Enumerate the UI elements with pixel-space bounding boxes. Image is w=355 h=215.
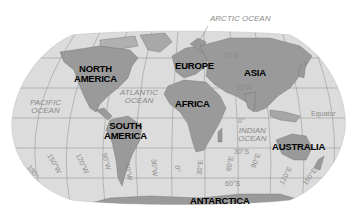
latitude-label-60n: 60°N [223, 52, 239, 59]
longitude-label-30w: 30°W [150, 159, 158, 177]
latitude-label-0: 0° [238, 117, 245, 124]
ocean-label-atlantic: ATLANTIC OCEAN [120, 89, 158, 105]
continent-label-australia: AUSTRALIA [272, 142, 325, 152]
longitude-label-0: 0° [174, 165, 181, 172]
continent-label-asia: ASIA [244, 68, 266, 78]
atlantic-label-line2: OCEAN [120, 97, 158, 105]
continent-label-europe: EUROPE [175, 61, 214, 71]
latitude-label-60s: 60°S [225, 180, 240, 187]
indian-label-line2: OCEAN [238, 135, 266, 143]
continent-label-antarctica: ANTARCTICA [190, 196, 250, 206]
latitude-label-30n: 30°N [236, 84, 252, 91]
continent-label-south-america: SOUTH AMERICA [104, 121, 147, 140]
ocean-label-pacific: PACIFIC OCEAN [30, 99, 61, 115]
continent-label-north-america: NORTH AMERICA [74, 64, 117, 83]
continent-label-africa: AFRICA [175, 99, 210, 109]
pacific-label-line2: OCEAN [30, 107, 61, 115]
latitude-label-equator: Equator [311, 110, 336, 117]
north-america-label-line2: AMERICA [74, 74, 117, 84]
south-america-label-line2: AMERICA [104, 131, 147, 141]
latitude-label-30s: 30°S [234, 148, 249, 155]
ocean-label-indian: INDIAN OCEAN [238, 127, 266, 143]
ocean-label-arctic: ARCTIC OCEAN [210, 15, 270, 23]
longitude-label-30e: 30°E [195, 160, 203, 176]
